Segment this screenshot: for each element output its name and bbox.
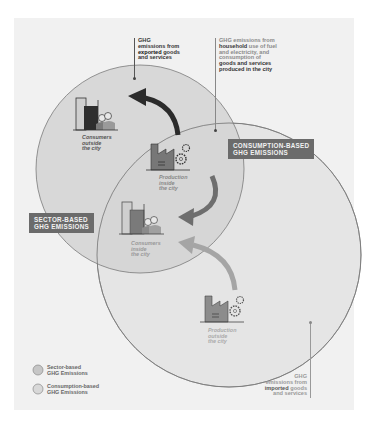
household-leader-dot	[214, 129, 217, 132]
sector-based-label: SECTOR-BASED GHG EMISSIONS	[29, 213, 94, 233]
note-line: produced in the city	[219, 67, 277, 73]
production-outside-caption: Production outside the city	[208, 328, 236, 345]
caption-line: the city	[131, 252, 161, 258]
label-line: SECTOR-BASED	[34, 216, 89, 223]
note-bold: produced in the city	[219, 66, 272, 72]
household-emissions-note: GHG emissions from household use of fuel…	[219, 38, 277, 73]
note-bold: household	[219, 43, 247, 49]
legend-consumption-label: Consumption-based GHG Emissions	[47, 384, 99, 395]
consumers-outside-caption: Consumers outside the city	[82, 135, 112, 152]
caption-line: the city	[159, 186, 187, 192]
caption-line: the city	[208, 339, 236, 345]
label-line: GHG EMISSIONS	[34, 223, 89, 230]
legend-consumption-swatch	[33, 384, 43, 394]
note-text: use of fuel	[247, 43, 277, 49]
household-leader-line	[215, 38, 216, 130]
consumption-based-label: CONSUMPTION-BASED GHG EMISSIONS	[228, 139, 314, 159]
venn-diagram	[0, 0, 368, 422]
exported-emissions-note: GHG emissions from exported goods and se…	[138, 38, 180, 61]
label-line: CONSUMPTION-BASED	[233, 142, 309, 149]
exported-leader-line	[134, 38, 135, 78]
consumers-inside-caption: Consumers inside the city	[131, 241, 161, 258]
imported-emissions-note: GHG emissions from imported goods and se…	[252, 374, 307, 397]
note-line: and services	[252, 391, 307, 397]
legend-line: GHG Emissions	[47, 390, 99, 396]
legend-sector-label: Sector-based GHG Emissions	[47, 365, 88, 376]
legend-line: GHG Emissions	[47, 371, 88, 377]
caption-line: the city	[82, 146, 112, 152]
imported-leader-dot	[309, 321, 312, 324]
exported-leader-dot	[133, 77, 136, 80]
legend-sector-swatch	[33, 365, 43, 375]
production-inside-caption: Production inside the city	[159, 175, 187, 192]
label-line: GHG EMISSIONS	[233, 149, 309, 156]
note-line: and services	[138, 55, 180, 61]
imported-leader-line	[310, 322, 311, 398]
